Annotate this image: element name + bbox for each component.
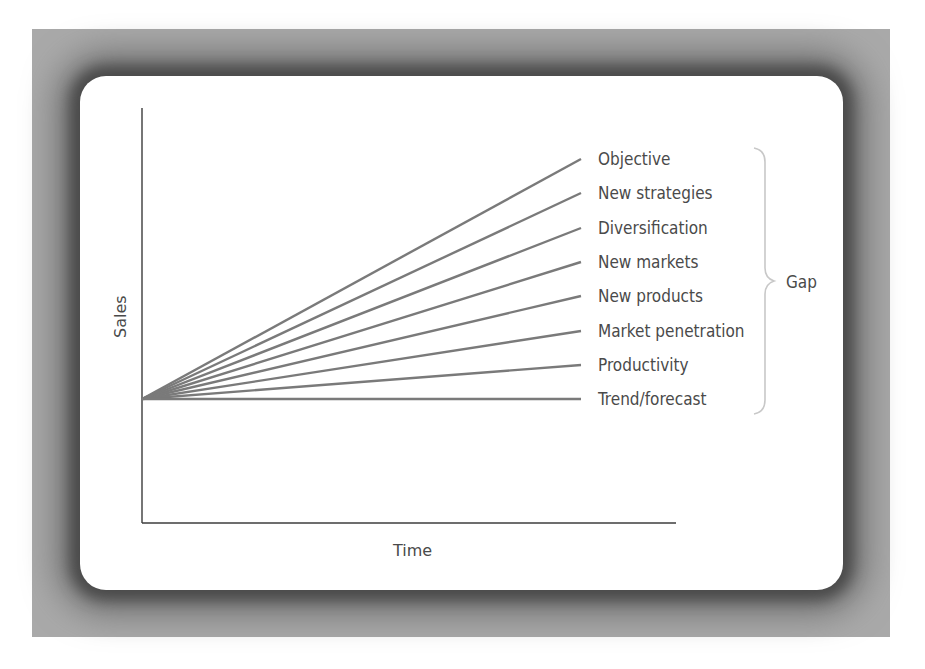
x-axis-label: Time xyxy=(392,541,432,560)
label-new-strategies: New strategies xyxy=(598,183,713,203)
gap-analysis-chart: Objective New strategies Diversification… xyxy=(0,0,925,669)
label-diversification: Diversification xyxy=(598,218,708,238)
label-new-markets: New markets xyxy=(598,252,698,272)
gap-label: Gap xyxy=(786,272,817,292)
y-axis-label: Sales xyxy=(111,295,130,338)
label-new-products: New products xyxy=(598,286,703,306)
fan-lines xyxy=(142,159,581,399)
line-productivity xyxy=(142,365,581,399)
label-market-penetration: Market penetration xyxy=(598,321,745,341)
line-objective xyxy=(142,159,581,399)
line-market-penetration xyxy=(142,331,581,399)
gap-brace xyxy=(754,148,774,414)
label-trend-forecast: Trend/forecast xyxy=(597,389,707,409)
line-new-markets xyxy=(142,262,581,399)
label-productivity: Productivity xyxy=(598,355,689,375)
line-diversification xyxy=(142,228,581,399)
line-new-strategies xyxy=(142,193,581,399)
label-objective: Objective xyxy=(598,149,671,169)
line-new-products xyxy=(142,296,581,399)
